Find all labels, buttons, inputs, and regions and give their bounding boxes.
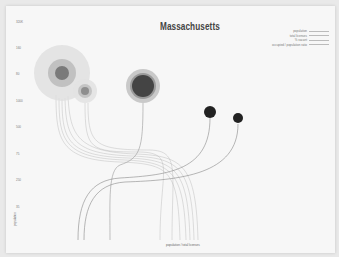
bubble-c — [126, 69, 160, 103]
bubble-b — [73, 79, 97, 103]
plot-area — [0, 0, 339, 257]
bubble-d — [204, 106, 216, 118]
bubble-e — [233, 113, 243, 123]
